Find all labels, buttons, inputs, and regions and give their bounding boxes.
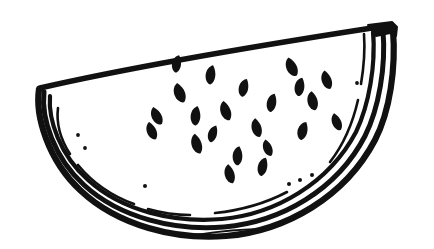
- rind-speck: [310, 173, 314, 177]
- rind-speck: [287, 182, 291, 186]
- watermelon-slice-illustration: Watermelon Slice Line Drawing: [0, 0, 434, 249]
- rind-speck: [355, 81, 359, 85]
- rind-speck: [76, 133, 80, 137]
- rind-speck: [83, 146, 87, 150]
- rind-speck: [298, 178, 302, 182]
- drawing-canvas: Watermelon Slice Line Drawing: [0, 0, 434, 249]
- right-inner-notch-stroke: [373, 33, 374, 57]
- rind-speck: [143, 184, 147, 188]
